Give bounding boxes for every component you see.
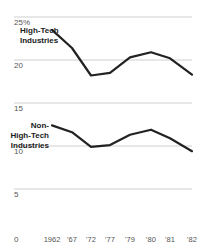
y-tick-label: 20 xyxy=(14,61,23,70)
x-tick-label: '82 xyxy=(187,235,197,244)
non-high-tech-line xyxy=(52,125,192,151)
high-tech-label: High-Tech xyxy=(20,26,59,35)
x-tick-label: 1962 xyxy=(44,235,61,244)
non-high-tech-label: Industries xyxy=(11,141,50,150)
x-tick-label: '72 xyxy=(86,235,96,244)
x-tick-label: '79 xyxy=(125,235,135,244)
y-tick-label: 15 xyxy=(14,104,23,113)
x-tick-label: '81 xyxy=(165,235,175,244)
non-high-tech-label: High-Tech xyxy=(10,131,49,140)
series-labels: High-TechIndustriesNon-High-TechIndustri… xyxy=(10,26,58,150)
y-tick-label: 5 xyxy=(14,190,19,199)
x-tick-label: '67 xyxy=(67,235,77,244)
line-chart: 0510152025% 1962'67'72'77'79'80'81'82 Hi… xyxy=(0,0,202,249)
high-tech-line xyxy=(52,30,192,76)
high-tech-label: Industries xyxy=(20,36,59,45)
non-high-tech-label: Non- xyxy=(31,121,50,130)
x-tick-label: '77 xyxy=(105,235,115,244)
y-tick-label: 0 xyxy=(14,235,19,244)
x-axis-labels: 1962'67'72'77'79'80'81'82 xyxy=(44,235,197,244)
series-lines xyxy=(52,30,192,151)
x-tick-label: '80 xyxy=(146,235,156,244)
